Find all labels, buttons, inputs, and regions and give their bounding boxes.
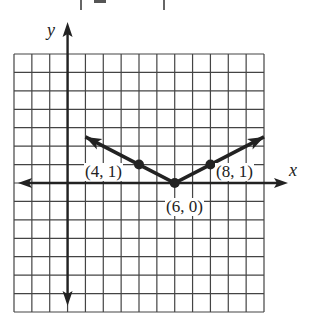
x-axis-label: x [289,160,297,181]
point-label-4-1: (4, 1) [84,163,123,181]
point-label-8-1: (8, 1) [215,163,254,181]
coordinate-plane [0,0,310,321]
graph-figure: y x (4, 1) (6, 0) (8, 1) [0,0,310,321]
point-label-6-0: (6, 0) [165,198,204,216]
clipped-header-fragment [81,0,164,10]
y-axis-label: y [47,20,55,41]
